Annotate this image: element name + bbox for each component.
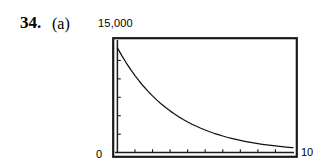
plot-area	[112, 37, 298, 158]
plot-frame	[113, 38, 297, 157]
exponential-decay-chart	[112, 37, 298, 158]
x-axis-min-label: 0	[96, 148, 102, 161]
part-label: (a)	[52, 14, 70, 34]
problem-number: 34.	[20, 13, 41, 33]
y-axis-max-label: 15,000	[98, 17, 133, 30]
figure-page: 34. (a) 15,000 0 10	[0, 0, 328, 168]
x-axis-max-label: 10	[301, 146, 313, 159]
